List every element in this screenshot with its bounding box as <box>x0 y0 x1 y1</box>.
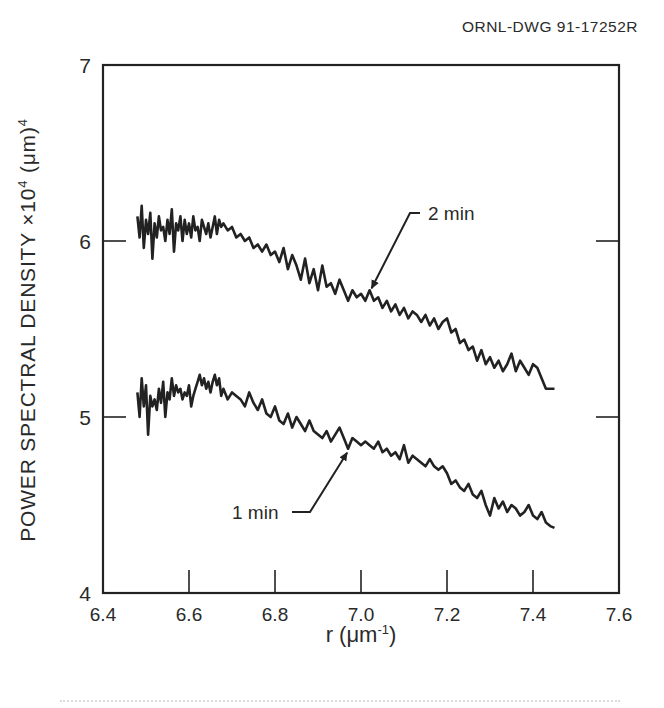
annotation-1min-label: 1 min <box>232 502 278 523</box>
annotation-2min-label: 2 min <box>428 203 474 224</box>
y-tick-label: 5 <box>79 406 91 429</box>
psd-chart: 6.46.66.87.07.27.47.64567 2 min1 min <box>0 0 664 708</box>
series-line-2-min <box>137 206 554 389</box>
cropped-caption-fragment <box>60 700 620 706</box>
y-tick-label: 4 <box>79 582 91 605</box>
x-tick-label: 6.6 <box>176 604 202 625</box>
x-tick-label: 6.4 <box>90 604 117 625</box>
x-tick-label: 7.2 <box>434 604 460 625</box>
y-tick-label: 7 <box>79 54 91 77</box>
x-tick-label: 7.4 <box>520 604 547 625</box>
y-tick-label: 6 <box>79 230 91 253</box>
tick-labels: 6.46.66.87.07.27.47.64567 <box>79 54 632 625</box>
x-tick-label: 6.8 <box>262 604 288 625</box>
series-line-1-min <box>137 375 554 528</box>
x-tick-label: 7.0 <box>348 604 374 625</box>
x-tick-label: 7.6 <box>606 604 632 625</box>
annotation-2min-arrow <box>372 213 420 288</box>
data-series <box>137 206 554 528</box>
annotation-1min-arrow <box>292 453 347 512</box>
